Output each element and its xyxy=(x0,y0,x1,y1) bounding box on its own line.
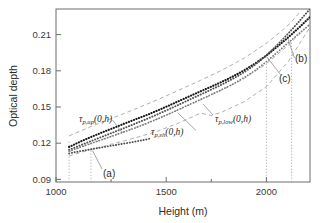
yticklabel-012: 0.12 xyxy=(33,137,52,148)
lower-bound-dashed xyxy=(69,27,310,156)
label-tau-p-low: τp,low(0,h) xyxy=(215,114,251,125)
curve-tau-p-sh xyxy=(69,9,310,150)
label-tau-p-sh: τp,sh(0,h) xyxy=(151,127,183,138)
xticklabel-1500: 1500 xyxy=(156,186,177,197)
leader-c xyxy=(267,57,281,75)
y-axis-title: Optical depth xyxy=(7,65,19,127)
plot-frame xyxy=(56,9,310,182)
chart-figure: τp,up(0,h) τp,sh(0,h) τp,low(0,h) (a) (b… xyxy=(0,0,323,223)
yticklabel-015: 0.15 xyxy=(33,101,52,112)
leader-tau-up xyxy=(113,120,123,133)
series-labels: τp,up(0,h) τp,sh(0,h) τp,low(0,h) xyxy=(79,114,251,138)
yticklabel-021: 0.21 xyxy=(33,29,52,40)
annotation-c: (c) xyxy=(279,73,291,84)
leader-a xyxy=(93,151,103,170)
y-axis: 0.09 0.12 0.15 0.18 0.21 Optical depth xyxy=(7,29,61,185)
x-axis-title: Height (m) xyxy=(158,205,207,217)
yticklabel-009: 0.09 xyxy=(33,174,52,185)
leader-tau-low xyxy=(203,104,213,115)
label-tau-p-up: τp,up(0,h) xyxy=(79,114,112,125)
curve-tau-p-up xyxy=(69,17,310,147)
yticklabel-018: 0.18 xyxy=(33,65,52,76)
xticklabel-2000: 2000 xyxy=(256,186,277,197)
annotation-a: (a) xyxy=(103,168,115,179)
figure-annotations: (a) (b) (c) xyxy=(103,53,307,179)
x-axis: 1000 1500 2000 Height (m) xyxy=(45,177,277,217)
curve-tau-p-low xyxy=(69,24,310,151)
chart-svg: τp,up(0,h) τp,sh(0,h) τp,low(0,h) (a) (b… xyxy=(0,0,323,223)
xticklabel-1000: 1000 xyxy=(45,186,66,197)
mid-bound-dashed xyxy=(69,23,310,151)
data-curves xyxy=(69,9,310,154)
annotation-b: (b) xyxy=(295,53,307,64)
